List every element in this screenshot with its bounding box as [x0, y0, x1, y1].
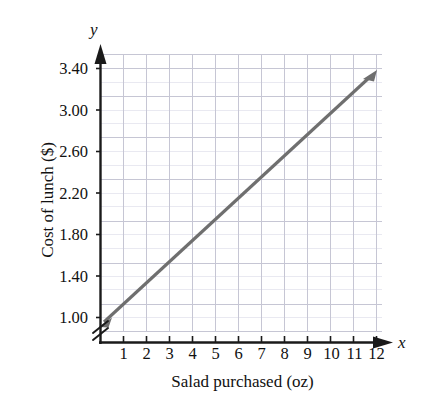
x-axis-title: Salad purchased (oz)	[100, 372, 385, 392]
y-axis-title: Cost of lunch ($)	[38, 85, 58, 315]
x-axis-tick-labels: 1 2 3 4 5 6 7 8 9 10 11 12	[0, 0, 436, 418]
x-tick-label-12: 12	[362, 345, 392, 363]
line-chart-figure: y x 1.00 1.40 1.80 2.20 2.60 3.00 3.40 1…	[0, 0, 436, 418]
